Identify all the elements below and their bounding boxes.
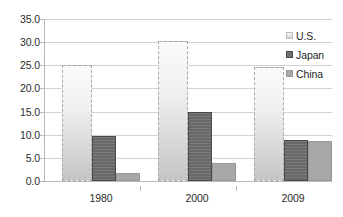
legend-label-us: U.S. (296, 30, 316, 42)
bar-us-2000 (158, 41, 188, 181)
legend-item-us: U.S. (286, 26, 343, 45)
bar-group-1980 (62, 19, 140, 181)
bar-china-2009 (308, 141, 332, 181)
bar-japan-1980 (92, 136, 116, 181)
x-axis-separator (236, 186, 237, 191)
bar-us-1980 (62, 65, 92, 181)
bar-china-1980 (116, 173, 140, 181)
bar-us-2009 (254, 67, 284, 181)
legend-swatch-china-icon (286, 70, 293, 77)
legend-item-china: China (286, 64, 343, 83)
bar-japan-2000 (188, 112, 212, 181)
x-axis-separator (140, 186, 141, 191)
legend-label-china: China (296, 68, 323, 80)
bar-china-2000 (212, 163, 236, 181)
y-tick-label: 25.0 (0, 59, 40, 71)
y-tick-label: 30.0 (0, 36, 40, 48)
x-tick-label-2000: 2000 (158, 192, 236, 204)
zero-gridline (44, 181, 332, 182)
legend-swatch-japan-icon (286, 51, 293, 58)
legend: U.S. Japan China (286, 26, 343, 83)
bar-group-2000 (158, 19, 236, 181)
y-tick-label: 15.0 (0, 106, 40, 118)
y-tick-label: 20.0 (0, 82, 40, 94)
y-tick-label: 10.0 (0, 129, 40, 141)
legend-item-japan: Japan (286, 45, 343, 64)
y-tick-label: 35.0 (0, 13, 40, 25)
bar-japan-2009 (284, 140, 308, 181)
legend-swatch-us-icon (286, 32, 293, 39)
bar-chart: 35.0 30.0 25.0 20.0 15.0 10.0 5.0 0.0 (0, 0, 343, 217)
x-axis: 1980 2000 2009 (44, 186, 332, 208)
x-tick-label-2009: 2009 (254, 192, 332, 204)
y-tick-label: 5.0 (0, 152, 40, 164)
x-tick-label-1980: 1980 (62, 192, 140, 204)
y-axis: 35.0 30.0 25.0 20.0 15.0 10.0 5.0 0.0 (0, 0, 40, 217)
legend-label-japan: Japan (296, 49, 324, 61)
y-tick-label: 0.0 (0, 175, 40, 187)
